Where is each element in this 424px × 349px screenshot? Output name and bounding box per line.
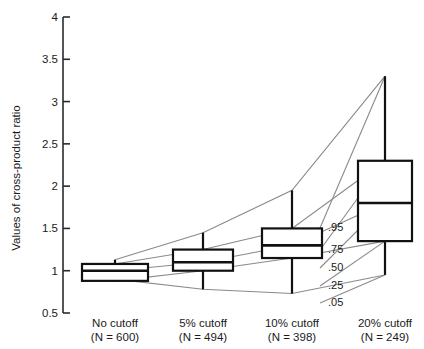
percentile-label-p95: .95 <box>328 221 343 233</box>
y-axis-title: Values of cross-product ratio <box>10 105 22 251</box>
category-sublabel-1: (N = 600) <box>91 331 139 343</box>
box-iqr <box>358 161 412 241</box>
boxplot-chart: 0.511.522.533.54 Values of cross-product… <box>0 0 424 349</box>
category-label-1: No cutoff <box>92 317 139 329</box>
category-sublabel-3: (N = 398) <box>268 331 316 343</box>
y-axis-tick-label: 4 <box>52 11 59 23</box>
box-iqr <box>173 250 233 271</box>
percentile-label-p75: .75 <box>328 243 343 255</box>
y-axis-tick-label: 2 <box>52 180 58 192</box>
category-sublabel-4: (N = 249) <box>361 331 409 343</box>
category-sublabel-2: (N = 494) <box>179 331 227 343</box>
percentile-label-p25: .25 <box>328 279 343 291</box>
percentile-label-p05: .05 <box>328 296 343 308</box>
chart-canvas: 0.511.522.533.54 Values of cross-product… <box>0 0 424 349</box>
y-axis-tick-label: 3.5 <box>42 53 58 65</box>
y-axis-tick-label: 0.5 <box>42 307 58 319</box>
y-axis-title-text: Values of cross-product ratio <box>10 105 22 251</box>
category-label-3: 10% cutoff <box>265 317 320 329</box>
y-axis-tick-label: 3 <box>52 96 58 108</box>
y-axis-tick-label: 1 <box>52 265 58 277</box>
category-label-2: 5% cutoff <box>179 317 228 329</box>
y-axis-tick-label: 1.5 <box>42 222 58 234</box>
box-iqr <box>262 228 322 258</box>
box-group-1 <box>82 260 148 281</box>
y-axis-tick-label: 2.5 <box>42 138 58 150</box>
percentile-label-p50: .50 <box>328 261 343 273</box>
box-iqr <box>82 264 148 281</box>
category-label-4: 20% cutoff <box>358 317 413 329</box>
